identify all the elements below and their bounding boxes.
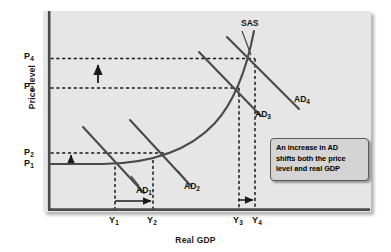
price-tick-p3: P3: [24, 82, 34, 91]
curves-layer: [43, 11, 371, 212]
output-tick-y1: Y1: [109, 216, 119, 225]
ad2-leader: [178, 171, 186, 181]
callout-line-2: shifts both the price: [276, 154, 363, 165]
plot-area: SAS AD1 AD2 AD3 AD4: [43, 11, 371, 212]
price-tick-p1: P1: [24, 159, 34, 168]
curve-label-ad1: AD1: [136, 186, 152, 195]
output-tick-y4: Y4: [252, 216, 262, 225]
price-tick-p4: P4: [24, 52, 34, 61]
curve-label-ad3: AD3: [255, 110, 271, 119]
callout-line-1: An increase in AD: [276, 143, 363, 154]
ad1-curve: [83, 127, 144, 193]
curve-label-ad4: AD4: [294, 95, 310, 104]
sas-leader: [242, 31, 251, 55]
price-tick-p2: P2: [24, 148, 34, 157]
callout-box: An increase in AD shifts both the price …: [270, 138, 369, 181]
x-axis-title: Real GDP: [0, 235, 391, 245]
curve-label-ad2: AD2: [184, 182, 200, 191]
output-tick-y3: Y3: [233, 216, 243, 225]
output-tick-y2: Y2: [147, 216, 157, 225]
ad-as-figure: Price level Real GDP P4 P3 P2 P1 Y1 Y2 Y…: [0, 0, 391, 252]
ad4-curve: [227, 37, 299, 109]
callout-line-3: level and real GDP: [276, 164, 363, 175]
curve-label-sas: SAS: [241, 19, 258, 28]
